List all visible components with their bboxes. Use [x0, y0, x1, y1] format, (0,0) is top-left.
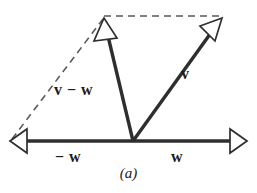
v-minus-w-arrowhead-icon: [94, 18, 117, 41]
negative-w-arrowhead-icon: [10, 129, 27, 153]
vector-figure: v − w v − w w (a): [0, 0, 257, 193]
figure-caption: (a): [0, 166, 257, 181]
v-minus-w-vector-shaft: [107, 32, 133, 141]
label-v: v: [181, 66, 190, 82]
label-w: w: [171, 149, 183, 165]
v-vector-shaft: [133, 30, 213, 141]
dashed-diagonal-line: [12, 19, 103, 139]
v-arrowhead-icon: [200, 18, 222, 41]
label-negative-w: − w: [55, 149, 81, 165]
w-arrowhead-icon: [230, 129, 247, 153]
label-v-minus-w: v − w: [54, 82, 93, 98]
